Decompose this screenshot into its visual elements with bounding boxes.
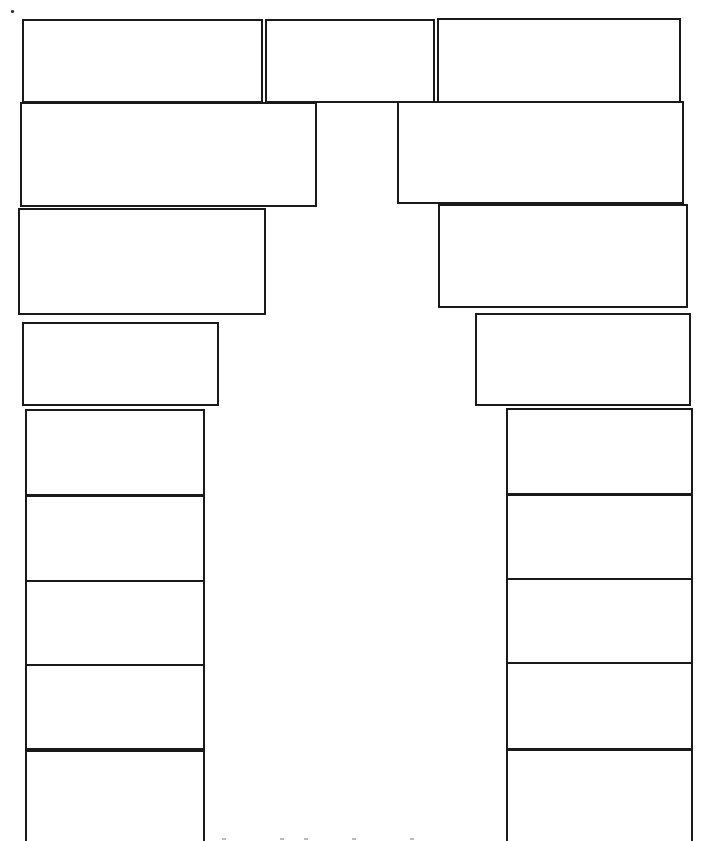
box-left-2 xyxy=(20,102,317,207)
box-right-col-1 xyxy=(506,408,693,495)
box-right-3 xyxy=(438,204,688,308)
box-right-col-5 xyxy=(506,749,693,841)
box-left-4 xyxy=(22,322,219,406)
box-left-col-3 xyxy=(25,580,205,666)
box-right-col-4 xyxy=(506,662,693,750)
archway-diagram xyxy=(0,0,701,841)
corner-dot xyxy=(11,10,14,13)
box-left-col-2 xyxy=(25,495,205,582)
cut-off-caption xyxy=(220,834,480,841)
box-right-col-3 xyxy=(506,578,693,664)
box-right-2 xyxy=(397,101,684,204)
box-left-col-5 xyxy=(25,750,205,841)
box-top-center xyxy=(265,19,435,103)
box-top-left xyxy=(22,19,263,103)
box-top-right xyxy=(437,18,681,103)
box-right-col-2 xyxy=(506,494,693,580)
box-left-col-4 xyxy=(25,664,205,750)
box-left-3 xyxy=(18,208,266,315)
box-left-col-1 xyxy=(25,409,205,496)
box-right-4 xyxy=(475,313,691,406)
